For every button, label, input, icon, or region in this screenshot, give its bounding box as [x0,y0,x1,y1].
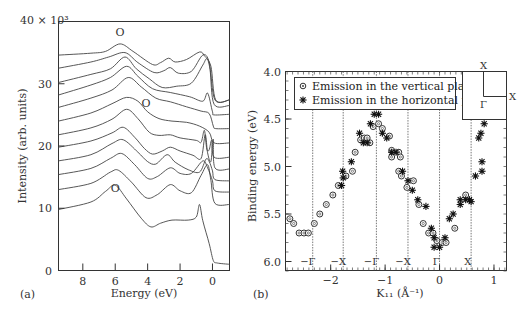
inset-label-x-right: X [509,91,517,102]
peak-marker-label: O [116,26,125,39]
x-tick-label: 8 [79,275,86,288]
symmetry-label: −X [395,256,411,267]
x-axis-ticks-a: 86420 [79,264,216,289]
x-tick-label: 0 [209,275,216,288]
star-marker-icon [446,215,453,222]
y-axis-title-a: Intensity (arb. units) [16,89,29,204]
star-marker-icon [468,198,475,205]
y-axis-title-b: Binding energy (eV) [246,110,259,222]
star-marker-icon [436,244,443,251]
intensity-curve [59,52,230,102]
circle-marker-icon [330,192,336,198]
star-marker-icon [404,177,411,184]
star-marker-icon [457,201,464,208]
y-tick-label: 4.5 [264,113,282,126]
intensity-curve [59,44,230,102]
intensity-curve [59,153,230,192]
symmetry-point-labels: −Γ−X−Γ−XΓX [300,256,472,267]
circle-marker-icon [305,230,311,236]
intensity-curves [59,44,230,264]
inset-frame [463,72,507,120]
circle-marker-icon [452,225,458,231]
circle-marker-icon [398,173,404,179]
star-marker-icon [478,168,485,175]
circle-marker-icon [416,202,422,208]
star-marker-icon [422,203,429,210]
intensity-curve [59,185,230,264]
circle-marker-icon [420,221,426,227]
symmetry-label: −X [331,256,347,267]
circle-marker-icon [317,211,323,217]
star-marker-icon [364,139,371,146]
circle-marker-icon [349,168,355,174]
y-tick-label: 0 [45,265,52,278]
inset-label-x-top: X [480,60,488,71]
y-tick-label: 4.0 [264,66,282,79]
y-tick-label: 20 [38,140,52,153]
x-tick-label: −2 [323,274,339,287]
intensity-curve [59,109,230,158]
star-marker-icon [477,130,484,137]
y-tick-label: 30 [38,78,52,91]
symmetry-label: Γ [433,256,440,267]
star-marker-icon [481,120,488,127]
circle-marker-icon [323,202,329,208]
y-tick-label: 10 [38,202,52,215]
peak-marker-label: O [111,182,120,195]
inset-label-gamma: Γ [480,99,487,110]
circle-marker-icon [311,221,317,227]
panel-a-intensity-chart: 86420 0102030 OOO 40 × 10³ Energy (eV) I… [16,14,230,301]
peak-marker-label: O [142,97,151,110]
star-marker-icon [338,182,345,189]
x-tick-label: 2 [177,275,184,288]
x-tick-label: −1 [377,274,393,287]
panel-label-a: (a) [20,288,35,301]
x-tick-label: 1 [490,274,497,287]
x-axis-title-b: K₁₁ (Å⁻¹) [376,286,423,300]
x-tick-label: 0 [436,274,443,287]
figure: 86420 0102030 OOO 40 × 10³ Energy (eV) I… [0,0,530,319]
star-marker-icon [409,187,416,194]
legend-star-icon [299,96,306,103]
circle-marker-icon [404,184,410,190]
star-marker-icon [392,149,399,156]
y-tick-label: 5.5 [264,208,282,221]
y-axis-ticks-b: 4.04.55.05.56.0 [264,66,292,269]
star-marker-icon [472,172,479,179]
star-marker-icon [356,130,363,137]
panel-b-binding-energy-chart: −2−101 4.04.55.05.56.0 −Γ−X−Γ−XΓX Emissi… [246,60,517,301]
star-marker-icon [340,174,347,181]
star-marker-icon [375,111,382,118]
star-marker-icon [348,158,355,165]
star-marker-icon [414,196,421,203]
star-marker-icon [299,96,306,103]
star-marker-icon [428,225,435,232]
legend-label-vertical: Emission in the vertical plane [312,80,478,93]
star-marker-icon [339,168,346,175]
panel-label-b: (b) [253,288,269,301]
symmetry-label: −Γ [300,256,315,267]
star-marker-icon [450,210,457,217]
x-axis-ticks-b: −2−101 [323,265,498,288]
symmetry-label: −Γ [364,256,379,267]
star-marker-icon [441,234,448,241]
star-marker-icon [383,134,390,141]
circle-marker-icon [443,240,449,246]
symmetry-label: X [464,256,472,267]
y-axis-ticks-a: 0102030 [38,78,65,278]
y-multiplier-label: 40 × 10³ [20,14,69,27]
x-axis-title-a: Energy (eV) [111,287,178,300]
star-marker-icon [367,120,374,127]
scatter-points [287,111,488,251]
brillouin-zone-inset: X X Γ [463,60,518,120]
star-marker-icon [478,158,485,165]
y-tick-label: 5.0 [264,161,282,174]
circle-marker-icon [291,221,297,227]
y-tick-label: 6.0 [264,256,282,269]
star-marker-icon [431,234,438,241]
legend-circle-dot-icon [302,85,304,87]
circle-marker-icon [352,149,358,155]
intensity-curve [59,165,230,206]
star-marker-icon [399,168,406,175]
